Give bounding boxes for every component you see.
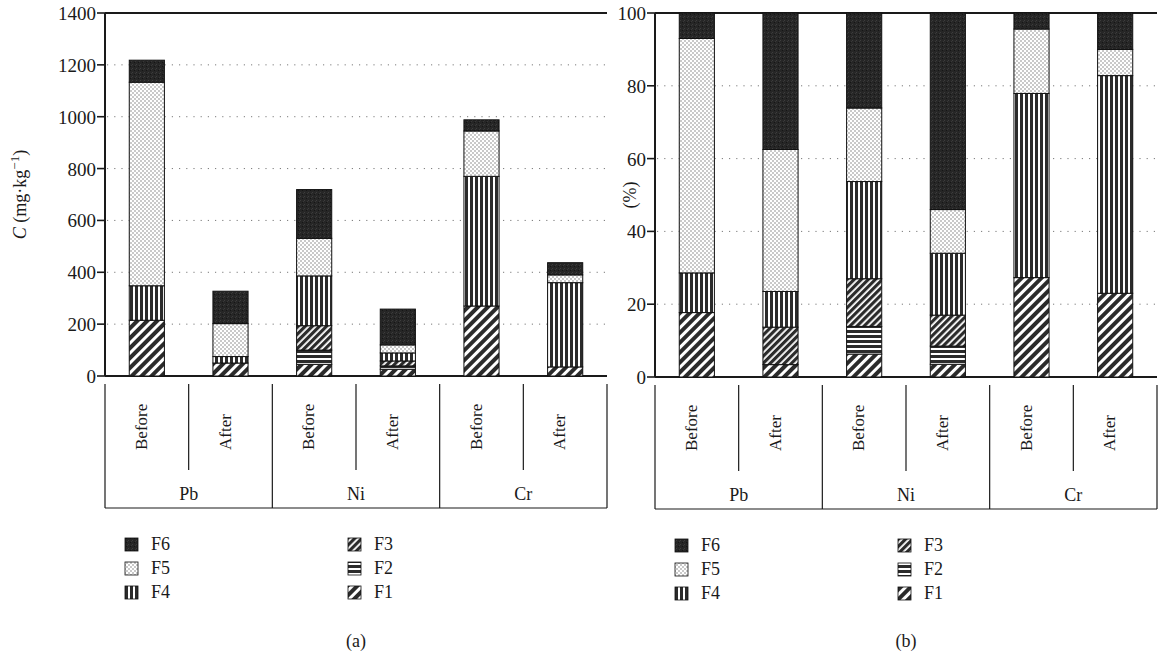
y-axis-title: (%) [620,182,641,209]
bar-segment-F3[interactable] [380,361,415,366]
bar-segment-F4[interactable] [847,182,882,279]
bar-segment-F5[interactable] [1014,29,1049,93]
bar-segment-F6[interactable] [129,60,164,82]
bar-segment-F2[interactable] [380,366,415,369]
bar-segment-F6[interactable] [380,309,415,345]
bar-Ni-Before[interactable] [297,190,332,376]
bar-segment-F4[interactable] [1014,93,1049,277]
bar-Pb-Before[interactable] [679,13,714,377]
bar-segment-F1[interactable] [464,306,499,376]
legend-item-F4[interactable]: F4 [125,582,170,602]
figure-root: 0200400600800100012001400C (mg·kg−1)Befo… [0,0,1169,661]
bar-segment-F5[interactable] [930,210,965,254]
bar-Ni-After[interactable] [930,13,965,377]
bar-segment-F4[interactable] [763,291,798,327]
bar-segment-F4[interactable] [930,253,965,315]
y-axis-tick-label: 1000 [58,107,96,128]
bar-segment-F5[interactable] [548,275,583,283]
legend-label: F2 [924,559,943,579]
legend-item-F2[interactable]: F2 [898,559,943,579]
legend-swatch-F4-icon [125,586,138,599]
legend-label: F2 [374,558,393,578]
legend-label: F3 [924,535,943,555]
bar-segment-F1[interactable] [763,365,798,377]
bar-Ni-Before[interactable] [847,13,882,377]
bar-segment-F1[interactable] [1014,278,1049,377]
legend-item-F3[interactable]: F3 [348,534,393,554]
bar-segment-F3[interactable] [763,327,798,364]
bar-Pb-After[interactable] [763,13,798,377]
y-axis-tick-label: 600 [68,210,97,231]
bar-segment-F1[interactable] [1098,293,1133,377]
bar-segment-F6[interactable] [679,13,714,38]
x-axis-category-label: Before [682,405,701,451]
legend-item-F6[interactable]: F6 [675,535,720,555]
bar-segment-F6[interactable] [297,190,332,239]
legend-item-F2[interactable]: F2 [348,558,393,578]
legend-item-F3[interactable]: F3 [898,535,943,555]
bar-segment-F6[interactable] [1098,13,1133,49]
bar-segment-F4[interactable] [548,283,583,367]
bar-Pb-After[interactable] [213,291,248,376]
bar-segment-F1[interactable] [679,313,714,377]
bar-segment-F5[interactable] [129,82,164,286]
bar-segment-F1[interactable] [213,363,248,376]
bar-Cr-After[interactable] [548,263,583,376]
legend-swatch-F1-icon [898,587,911,600]
panel-caption: (b) [896,631,917,652]
bar-segment-F1[interactable] [930,364,965,377]
bar-segment-F6[interactable] [763,13,798,150]
bar-segment-F5[interactable] [1098,49,1133,75]
bar-segment-F6[interactable] [930,13,965,210]
bar-segment-F4[interactable] [464,176,499,306]
bar-segment-F2[interactable] [297,350,332,364]
bar-Cr-After[interactable] [1098,13,1133,377]
legend-item-F1[interactable]: F1 [348,582,393,602]
legend-item-F6[interactable]: F6 [125,534,170,554]
bar-segment-F6[interactable] [464,120,499,131]
bar-segment-F3[interactable] [930,315,965,346]
legend-item-F5[interactable]: F5 [675,559,720,579]
bar-segment-F1[interactable] [380,369,415,376]
bar-segment-F2[interactable] [930,346,965,364]
bar-segment-F2[interactable] [847,326,882,354]
bar-segment-F6[interactable] [548,263,583,275]
legend-item-F1[interactable]: F1 [898,583,943,603]
legend-item-F4[interactable]: F4 [675,583,720,603]
bar-segment-F5[interactable] [380,345,415,353]
y-axis-tick-label: 20 [627,294,646,315]
bar-segment-F6[interactable] [213,291,248,323]
bar-segment-F6[interactable] [847,13,882,108]
legend-label: F5 [151,558,170,578]
bar-segment-F4[interactable] [380,353,415,361]
bar-segment-F4[interactable] [679,273,714,313]
y-axis-tick-label: 40 [627,221,646,242]
bar-segment-F3[interactable] [847,279,882,327]
bar-segment-F6[interactable] [1014,13,1049,29]
bar-segment-F1[interactable] [847,354,882,377]
y-axis-tick-label: 0 [637,367,647,388]
bar-segment-F4[interactable] [297,276,332,326]
bar-segment-F3[interactable] [297,326,332,350]
bar-segment-F5[interactable] [679,38,714,272]
bar-segment-F5[interactable] [297,238,332,276]
bar-Ni-After[interactable] [380,309,415,376]
legend-swatch-F6-icon [675,539,688,552]
bar-segment-F1[interactable] [548,367,583,376]
bar-Cr-Before[interactable] [464,120,499,376]
bar-segment-F4[interactable] [213,357,248,363]
bar-segment-F4[interactable] [1098,76,1133,294]
bar-segment-F5[interactable] [763,150,798,292]
bar-segment-F5[interactable] [464,131,499,176]
bar-segment-F5[interactable] [847,108,882,182]
bar-segment-F4[interactable] [129,286,164,320]
bar-Cr-Before[interactable] [1014,13,1049,377]
bar-Pb-Before[interactable] [129,60,164,376]
legend-item-F5[interactable]: F5 [125,558,170,578]
bar-segment-F5[interactable] [213,324,248,357]
legend-label: F5 [701,559,720,579]
bar-segment-F1[interactable] [297,364,332,376]
x-axis-category-label: Before [849,405,868,451]
legend-swatch-F6-icon [125,538,138,551]
bar-segment-F1[interactable] [129,320,164,376]
